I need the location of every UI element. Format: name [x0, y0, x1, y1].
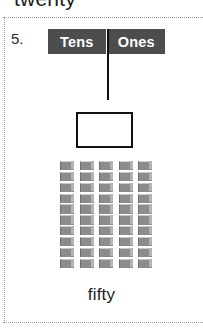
worksheet-exercise-5: twenty 5. Tens Ones fifty [0, 0, 203, 330]
dotted-rule-top [3, 17, 203, 18]
base-ten-unit [99, 183, 113, 192]
number-word-caption: fifty [0, 285, 203, 305]
previous-item-word: twenty [14, 0, 76, 11]
base-ten-unit [138, 248, 152, 257]
base-ten-unit [80, 215, 94, 224]
base-ten-unit [119, 183, 133, 192]
answer-input-box[interactable] [76, 112, 133, 148]
dotted-rule-left [4, 17, 5, 323]
base-ten-unit [99, 226, 113, 235]
base-ten-unit [80, 226, 94, 235]
base-ten-unit [99, 161, 113, 170]
base-ten-unit [138, 194, 152, 203]
base-ten-unit [119, 226, 133, 235]
base-ten-unit [80, 237, 94, 246]
base-ten-unit [80, 259, 94, 268]
base-ten-unit [80, 183, 94, 192]
base-ten-unit [99, 237, 113, 246]
place-value-column-divider [107, 29, 109, 100]
base-ten-unit [60, 237, 74, 246]
base-ten-unit [138, 183, 152, 192]
base-ten-unit [138, 237, 152, 246]
base-ten-rod [119, 161, 133, 268]
base-ten-unit [119, 172, 133, 181]
base-ten-rods-group [60, 161, 152, 268]
dotted-rule-bottom [3, 322, 203, 323]
base-ten-unit [138, 204, 152, 213]
place-value-header-tens: Tens [48, 29, 106, 54]
base-ten-unit [60, 259, 74, 268]
base-ten-rod [60, 161, 74, 268]
base-ten-unit [60, 248, 74, 257]
base-ten-unit [99, 172, 113, 181]
base-ten-unit [60, 161, 74, 170]
base-ten-unit [60, 215, 74, 224]
base-ten-unit [60, 226, 74, 235]
base-ten-unit [80, 194, 94, 203]
base-ten-unit [60, 172, 74, 181]
base-ten-unit [99, 259, 113, 268]
base-ten-unit [119, 248, 133, 257]
base-ten-unit [80, 204, 94, 213]
base-ten-unit [99, 204, 113, 213]
base-ten-unit [119, 237, 133, 246]
base-ten-unit [119, 259, 133, 268]
base-ten-unit [138, 172, 152, 181]
base-ten-unit [138, 161, 152, 170]
item-number: 5. [11, 30, 24, 47]
base-ten-unit [119, 204, 133, 213]
base-ten-rod [80, 161, 94, 268]
base-ten-rod [138, 161, 152, 268]
place-value-header-ones: Ones [106, 29, 166, 54]
base-ten-unit [80, 248, 94, 257]
base-ten-unit [119, 215, 133, 224]
base-ten-unit [60, 204, 74, 213]
base-ten-unit [60, 194, 74, 203]
base-ten-unit [138, 215, 152, 224]
base-ten-unit [99, 248, 113, 257]
base-ten-unit [80, 172, 94, 181]
base-ten-unit [99, 215, 113, 224]
base-ten-unit [138, 259, 152, 268]
base-ten-unit [138, 226, 152, 235]
base-ten-rod [99, 161, 113, 268]
base-ten-unit [60, 183, 74, 192]
base-ten-unit [80, 161, 94, 170]
base-ten-unit [119, 161, 133, 170]
base-ten-unit [99, 194, 113, 203]
base-ten-unit [119, 194, 133, 203]
